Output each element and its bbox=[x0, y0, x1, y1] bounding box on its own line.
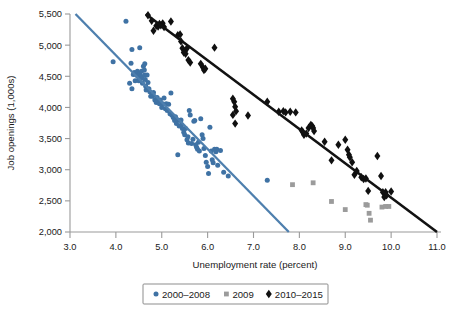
y-tick-label: 4,000 bbox=[39, 103, 62, 113]
y-tick-label: 2,000 bbox=[39, 227, 62, 237]
y-tick-label: 3,000 bbox=[39, 165, 62, 175]
data-point bbox=[111, 59, 116, 64]
data-point bbox=[206, 171, 211, 176]
legend-item-1[interactable]: 2000–2008 bbox=[154, 289, 211, 300]
data-point bbox=[197, 149, 202, 154]
x-tick-label: 4.0 bbox=[109, 242, 122, 252]
data-point bbox=[188, 112, 193, 117]
data-point bbox=[201, 136, 206, 141]
data-point bbox=[127, 81, 132, 86]
data-point bbox=[198, 116, 203, 121]
data-point bbox=[367, 211, 372, 216]
x-axis-title: Unemployment rate (percent) bbox=[193, 259, 318, 270]
data-point bbox=[123, 19, 128, 24]
legend-marker-circle bbox=[154, 292, 159, 297]
data-point bbox=[215, 163, 220, 168]
y-tick-label: 5,000 bbox=[39, 41, 62, 51]
x-tick-label: 9.0 bbox=[339, 242, 352, 252]
data-point bbox=[129, 47, 134, 52]
legend-marker-square bbox=[224, 292, 229, 297]
data-point bbox=[265, 178, 270, 183]
data-point bbox=[187, 108, 192, 113]
data-point bbox=[205, 164, 210, 169]
data-point bbox=[137, 45, 142, 50]
data-point bbox=[142, 68, 147, 73]
x-tick-label: 5.0 bbox=[155, 242, 168, 252]
y-tick-label: 5,500 bbox=[39, 9, 62, 19]
data-point bbox=[192, 118, 197, 123]
scatter-chart: 2,0002,5003,0003,5004,0004,5005,0005,500… bbox=[0, 0, 457, 320]
chart-legend: 2000–200820092010–2015 bbox=[143, 284, 328, 304]
data-point bbox=[162, 96, 167, 101]
x-tick-label: 7.0 bbox=[247, 242, 260, 252]
data-point bbox=[365, 203, 370, 208]
x-tick-label: 6.0 bbox=[201, 242, 214, 252]
x-tick-label: 11.0 bbox=[428, 242, 445, 252]
data-point bbox=[218, 148, 223, 153]
beveridge-curve-figure: 2,0002,5003,0003,5004,0004,5005,0005,500… bbox=[0, 0, 457, 320]
data-point bbox=[145, 73, 150, 78]
data-point bbox=[185, 134, 190, 139]
chart-background bbox=[0, 0, 457, 320]
data-point bbox=[168, 91, 173, 96]
data-point bbox=[368, 218, 373, 223]
legend-label: 2009 bbox=[232, 289, 253, 300]
data-point bbox=[175, 152, 180, 157]
y-tick-label: 2,500 bbox=[39, 196, 62, 206]
y-axis-title: Job openings (1,000s) bbox=[5, 76, 16, 171]
x-tick-label: 10.0 bbox=[382, 242, 400, 252]
x-tick-label: 8.0 bbox=[293, 242, 306, 252]
data-point bbox=[207, 125, 212, 130]
data-point bbox=[226, 173, 231, 178]
data-point bbox=[203, 153, 208, 158]
data-point bbox=[343, 207, 348, 212]
data-point bbox=[145, 80, 150, 85]
data-point bbox=[211, 160, 216, 165]
y-tick-label: 3,500 bbox=[39, 134, 62, 144]
data-point bbox=[129, 61, 134, 66]
data-point bbox=[329, 199, 334, 204]
x-tick-label: 3.0 bbox=[64, 242, 77, 252]
y-tick-label: 4,500 bbox=[39, 72, 62, 82]
data-point bbox=[142, 61, 147, 66]
data-point bbox=[129, 86, 134, 91]
legend-label: 2000–2008 bbox=[162, 289, 210, 300]
legend-item-3[interactable]: 2010–2015 bbox=[266, 289, 323, 300]
data-point bbox=[311, 180, 316, 185]
data-point bbox=[221, 170, 226, 175]
data-point bbox=[204, 160, 209, 165]
legend-items: 2000–200820092010–2015 bbox=[154, 289, 323, 300]
data-point bbox=[386, 204, 391, 209]
data-point bbox=[290, 182, 295, 187]
legend-label: 2010–2015 bbox=[275, 289, 323, 300]
